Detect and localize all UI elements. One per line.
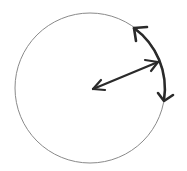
radian-diagram	[0, 0, 187, 171]
radius-arrow	[93, 60, 158, 90]
